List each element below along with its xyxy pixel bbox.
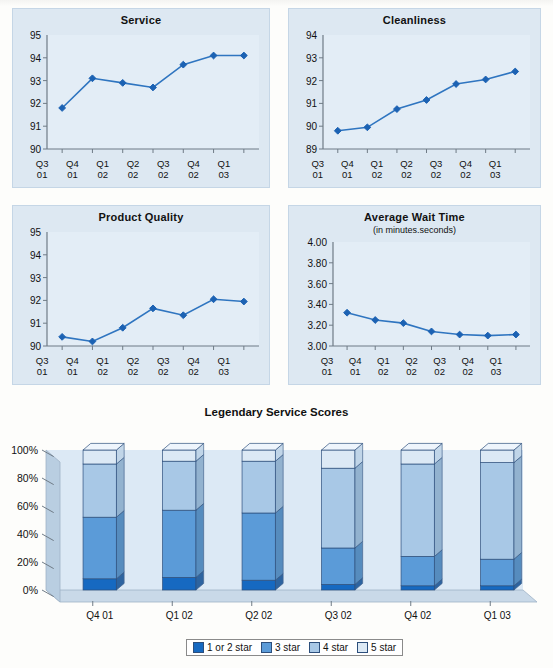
y-axis-tick-label: 95 <box>13 30 41 41</box>
x-axis-tick-label: Q4 02 <box>404 610 431 621</box>
legend-swatch-icon <box>309 642 320 653</box>
chart-panel-product-quality: Product Quality 959493929190Q301Q401Q102… <box>12 205 270 385</box>
x-axis-tick-label: Q103 <box>204 158 244 180</box>
y-axis-tick-label: 91 <box>13 121 41 132</box>
legend-item: 3 star <box>261 642 300 653</box>
legend-item: 5 star <box>357 642 396 653</box>
y-axis-tick-label: 93 <box>289 52 317 63</box>
panel-title: Service <box>13 14 269 26</box>
y-axis-tick-label: 91 <box>13 318 41 329</box>
panel-subtitle: (in minutes.seconds) <box>289 225 540 235</box>
y-axis-tick-label: 20% <box>0 556 38 568</box>
legend-swatch-icon <box>261 642 272 653</box>
x-axis-tick-label: Q2 02 <box>245 610 272 621</box>
x-axis-tick-label: Q1 03 <box>484 610 511 621</box>
plot-area <box>323 35 530 149</box>
chart-panel-average-wait-time: Average Wait Time (in minutes.seconds) 4… <box>288 205 541 385</box>
y-axis-tick-label: 91 <box>289 98 317 109</box>
legend-label: 3 star <box>275 642 300 653</box>
page-top-edge <box>0 0 553 6</box>
y-axis-tick-label: 90 <box>13 341 41 352</box>
x-axis-tick-label: Q103 <box>476 355 516 377</box>
y-axis-tick-label: 89 <box>289 144 317 155</box>
y-axis-tick-label: 80% <box>0 472 38 484</box>
y-axis-tick-label: 4.00 <box>289 237 327 248</box>
y-axis-tick-label: 92 <box>13 295 41 306</box>
plot-area <box>47 232 259 346</box>
plot-area <box>333 242 530 346</box>
y-axis-tick-label: 3.80 <box>289 257 327 268</box>
y-axis-tick-label: 3.60 <box>289 278 327 289</box>
y-axis-tick-label: 93 <box>13 272 41 283</box>
legend-label: 1 or 2 star <box>207 642 252 653</box>
y-axis-tick-label: 92 <box>13 98 41 109</box>
plot-area <box>47 35 259 149</box>
y-axis-tick-label: 60% <box>0 500 38 512</box>
chart-panel-service: Service 959493929190Q301Q401Q102Q202Q302… <box>12 8 270 188</box>
legend-label: 4 star <box>323 642 348 653</box>
legend-item: 4 star <box>309 642 348 653</box>
legend-swatch-icon <box>357 642 368 653</box>
bar-chart-legend: 1 or 2 star3 star4 star5 star <box>186 639 403 656</box>
x-axis-tick-label: Q103 <box>204 355 244 377</box>
legend-swatch-icon <box>193 642 204 653</box>
bar-chart-area: 100%80%60%40%20%0%Q4 01Q1 02Q2 02Q3 02Q4… <box>0 430 553 630</box>
y-axis-tick-label: 40% <box>0 528 38 540</box>
panel-title: Product Quality <box>13 211 269 223</box>
report-page: Service 959493929190Q301Q401Q102Q202Q302… <box>0 0 553 668</box>
y-axis-tick-label: 95 <box>13 227 41 238</box>
panel-title: Cleanliness <box>289 14 540 26</box>
bar-chart-title: Legendary Service Scores <box>0 406 553 418</box>
legend-item: 1 or 2 star <box>193 642 252 653</box>
y-axis-tick-label: 3.40 <box>289 299 327 310</box>
y-axis-tick-label: 0% <box>0 584 38 596</box>
y-axis-tick-label: 94 <box>13 52 41 63</box>
legend-label: 5 star <box>371 642 396 653</box>
x-axis-tick-label: Q3 02 <box>325 610 352 621</box>
y-axis-tick-label: 90 <box>13 144 41 155</box>
y-axis-tick-label: 94 <box>289 30 317 41</box>
y-axis-tick-label: 100% <box>0 444 38 456</box>
x-axis-tick-label: Q1 02 <box>166 610 193 621</box>
y-axis-tick-label: 3.00 <box>289 341 327 352</box>
x-axis-tick-label: Q4 01 <box>86 610 113 621</box>
y-axis-tick-label: 93 <box>13 75 41 86</box>
y-axis-tick-label: 90 <box>289 121 317 132</box>
y-axis-tick-label: 92 <box>289 75 317 86</box>
y-axis-tick-label: 94 <box>13 249 41 260</box>
x-axis-tick-label: Q103 <box>475 158 515 180</box>
panel-title: Average Wait Time <box>289 211 540 223</box>
chart-panel-cleanliness: Cleanliness 949392919089Q301Q401Q102Q202… <box>288 8 541 188</box>
y-axis-tick-label: 3.20 <box>289 320 327 331</box>
